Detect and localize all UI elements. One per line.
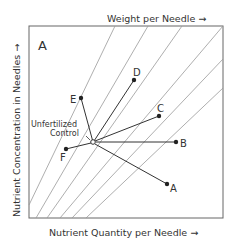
label-B: B: [180, 138, 187, 149]
label-E: E: [70, 94, 76, 105]
label-C: C: [157, 103, 164, 114]
control-point: [91, 140, 96, 145]
label-A: A: [170, 183, 177, 194]
vector-F: [66, 143, 91, 149]
control-label-line2: Control: [50, 129, 79, 138]
x-axis-label: Nutrient Quantity per Needle →: [49, 227, 198, 238]
isoline-5: [72, 59, 223, 218]
point-D: [132, 78, 136, 82]
vector-E: [81, 98, 93, 142]
point-A: [165, 182, 169, 186]
label-D: D: [133, 67, 141, 78]
vector-D: [94, 80, 134, 141]
isoline-4: [60, 26, 223, 218]
panel-label: A: [38, 38, 47, 53]
control-pointer: [86, 136, 90, 140]
label-F: F: [60, 152, 66, 163]
y-axis-label: Nutrient Concentration in Needles →: [11, 44, 22, 217]
vector-C: [95, 116, 159, 141]
response-vectors: [66, 80, 176, 184]
point-C: [157, 114, 161, 118]
isoline-6: [86, 88, 223, 218]
control-label-line1: Unfertilized: [31, 120, 77, 129]
point-E: [79, 96, 83, 100]
point-B: [174, 140, 178, 144]
top-axis-label: Weight per Needle →: [107, 13, 206, 24]
vector-diagram: A Weight per Needle → Nutrient Quantity …: [0, 0, 234, 246]
point-F: [64, 147, 68, 151]
